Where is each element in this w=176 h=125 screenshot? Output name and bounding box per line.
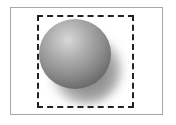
selection-marquee[interactable] (37, 15, 134, 108)
